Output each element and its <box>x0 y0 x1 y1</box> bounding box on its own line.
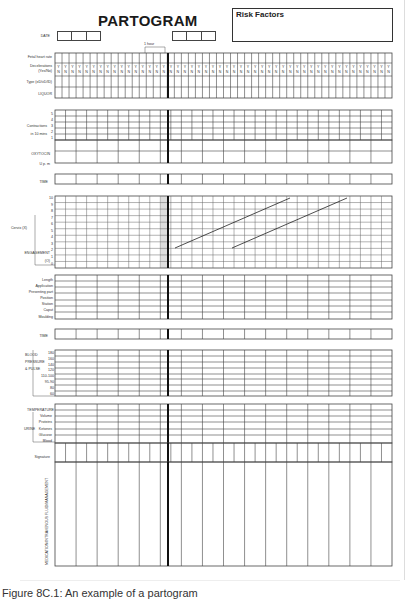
svg-text:Y: Y <box>352 65 355 69</box>
svg-text:N: N <box>310 70 313 74</box>
svg-text:N: N <box>345 70 348 74</box>
svg-text:Y: Y <box>247 65 250 69</box>
svg-text:N: N <box>85 70 88 74</box>
svg-text:N: N <box>254 70 257 74</box>
svg-text:4: 4 <box>51 118 53 122</box>
svg-text:N: N <box>352 70 355 74</box>
svg-text:120: 120 <box>48 368 54 372</box>
svg-text:N: N <box>71 70 74 74</box>
svg-text:Y: Y <box>296 65 299 69</box>
svg-text:N: N <box>296 70 299 74</box>
svg-text:N: N <box>212 70 215 74</box>
svg-text:N: N <box>177 70 180 74</box>
svg-text:N: N <box>317 70 320 74</box>
svg-text:Y: Y <box>170 65 173 69</box>
partogram-form: PARTOGRAM Risk Factors DATE 1 hour Fetal… <box>0 0 405 580</box>
svg-text:Y: Y <box>92 65 95 69</box>
svg-text:110-100: 110-100 <box>41 374 54 378</box>
svg-text:N: N <box>261 70 264 74</box>
svg-text:7: 7 <box>51 216 53 220</box>
svg-text:5: 5 <box>51 229 53 233</box>
svg-text:N: N <box>233 70 236 74</box>
svg-text:3: 3 <box>51 242 53 246</box>
svg-text:N: N <box>170 70 173 74</box>
svg-text:3: 3 <box>51 124 53 128</box>
svg-text:Y: Y <box>338 65 341 69</box>
svg-text:Y: Y <box>366 65 369 69</box>
svg-text:Y: Y <box>198 65 201 69</box>
svg-text:Y: Y <box>120 65 123 69</box>
svg-text:Y: Y <box>261 65 264 69</box>
svg-text:6: 6 <box>51 222 53 226</box>
svg-text:N: N <box>359 70 362 74</box>
svg-text:N: N <box>120 70 123 74</box>
svg-text:N: N <box>92 70 95 74</box>
svg-text:Y: Y <box>135 65 138 69</box>
svg-text:Y: Y <box>289 65 292 69</box>
svg-text:N: N <box>331 70 334 74</box>
svg-text:N: N <box>64 70 67 74</box>
svg-text:1: 1 <box>51 136 53 140</box>
svg-text:Y: Y <box>226 65 229 69</box>
svg-text:N: N <box>134 70 137 74</box>
svg-text:N: N <box>226 70 229 74</box>
svg-text:N: N <box>275 70 278 74</box>
svg-text:Y: Y <box>85 65 88 69</box>
svg-text:4: 4 <box>51 235 53 239</box>
svg-text:Y: Y <box>303 65 306 69</box>
svg-text:Y: Y <box>359 65 362 69</box>
svg-text:N: N <box>184 70 187 74</box>
svg-text:N: N <box>141 70 144 74</box>
svg-text:Y: Y <box>64 65 67 69</box>
figure-caption: Figure 8C.1: An example of a partogram <box>2 587 198 599</box>
divider <box>20 580 400 581</box>
svg-text:Y: Y <box>282 65 285 69</box>
svg-text:Y: Y <box>99 65 102 69</box>
svg-text:Y: Y <box>380 65 383 69</box>
svg-text:Y: Y <box>128 65 131 69</box>
svg-text:N: N <box>268 70 271 74</box>
svg-text:Y: Y <box>113 65 116 69</box>
svg-text:60: 60 <box>50 392 54 396</box>
svg-text:N: N <box>127 70 130 74</box>
svg-text:Y: Y <box>142 65 145 69</box>
svg-text:Y: Y <box>233 65 236 69</box>
svg-text:N: N <box>324 70 327 74</box>
svg-text:Y: Y <box>78 65 81 69</box>
svg-text:Y: Y <box>184 65 187 69</box>
svg-text:N: N <box>303 70 306 74</box>
svg-text:N: N <box>106 70 109 74</box>
svg-text:Y: Y <box>156 65 159 69</box>
svg-text:N: N <box>205 70 208 74</box>
svg-text:8: 8 <box>51 209 53 213</box>
svg-text:Y: Y <box>387 65 390 69</box>
svg-text:95-90: 95-90 <box>45 380 54 384</box>
svg-text:5: 5 <box>51 112 53 116</box>
svg-text:N: N <box>78 70 81 74</box>
svg-text:N: N <box>155 70 158 74</box>
svg-text:Y: Y <box>345 65 348 69</box>
svg-text:Y: Y <box>331 65 334 69</box>
svg-text:Y: Y <box>310 65 313 69</box>
svg-text:N: N <box>191 70 194 74</box>
svg-text:Y: Y <box>373 65 376 69</box>
svg-text:Y: Y <box>163 65 166 69</box>
svg-text:Y: Y <box>57 65 60 69</box>
svg-text:N: N <box>99 70 102 74</box>
svg-text:Y: Y <box>212 65 215 69</box>
svg-text:N: N <box>387 70 390 74</box>
svg-text:N: N <box>247 70 250 74</box>
svg-text:N: N <box>282 70 285 74</box>
svg-text:N: N <box>148 70 151 74</box>
svg-text:140: 140 <box>48 363 54 367</box>
svg-text:N: N <box>57 70 60 74</box>
svg-text:N: N <box>240 70 243 74</box>
svg-text:160: 160 <box>48 357 54 361</box>
svg-text:Y: Y <box>275 65 278 69</box>
svg-text:1: 1 <box>51 255 53 259</box>
svg-text:N: N <box>113 70 116 74</box>
partogram-grid[interactable]: YNYNYNYNYNYNYNYNYNYNYNYNYNYNYNYNYNYNYNYN… <box>0 0 404 580</box>
svg-text:180: 180 <box>48 351 54 355</box>
svg-text:N: N <box>338 70 341 74</box>
svg-text:80: 80 <box>50 386 54 390</box>
